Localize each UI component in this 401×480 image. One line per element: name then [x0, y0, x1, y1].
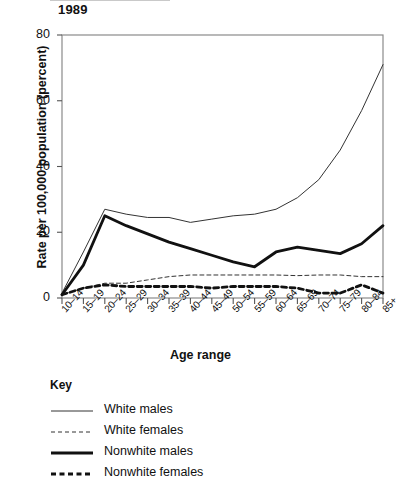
- legend-swatch-icon: [50, 424, 94, 436]
- y-tick-label: 20: [24, 224, 50, 238]
- y-tick-label: 40: [24, 159, 50, 173]
- legend-swatch-icon: [50, 466, 94, 478]
- x-axis-title: Age range: [0, 348, 401, 362]
- legend-swatch-icon: [50, 445, 94, 457]
- chart-legend: Key White malesWhite femalesNonwhite mal…: [50, 378, 350, 480]
- y-tick-label: 80: [24, 27, 50, 41]
- legend-entries: White malesWhite femalesNonwhite malesNo…: [50, 399, 350, 480]
- legend-item[interactable]: White males: [50, 399, 350, 419]
- legend-label: White females: [104, 423, 183, 437]
- legend-label: Nonwhite males: [104, 444, 193, 458]
- legend-item[interactable]: Nonwhite males: [50, 441, 350, 461]
- legend-item[interactable]: White females: [50, 420, 350, 440]
- legend-label: White males: [104, 402, 173, 416]
- legend-title: Key: [50, 378, 350, 392]
- legend-label: Nonwhite females: [104, 465, 203, 479]
- y-tick-label: 60: [24, 93, 50, 107]
- plot-area: [0, 0, 401, 340]
- legend-swatch-icon: [50, 403, 94, 415]
- y-tick-label: 0: [24, 290, 50, 304]
- legend-item[interactable]: Nonwhite females: [50, 462, 350, 480]
